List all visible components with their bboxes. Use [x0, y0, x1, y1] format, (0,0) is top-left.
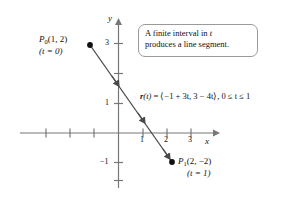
y-axis [114, 24, 123, 188]
point-P0-label: P0(1, 2) (t = 0) [39, 34, 67, 56]
y-axis-label: y [108, 13, 112, 23]
x-tick-label-2: 2 [164, 136, 168, 145]
y-tick-label-3: 3 [105, 39, 109, 48]
callout-box: A finite interval in t produces a line s… [138, 24, 258, 57]
parametric-line-figure: y x 1 2 3 3 1 −1 P0(1, 2) (t = 0) P1(2, … [0, 0, 300, 213]
x-tick-label-3: 3 [188, 136, 192, 145]
point-P1-param: (t = 1) [187, 168, 211, 178]
vector-equation: r(t) = ⟨−1 + 3t, 3 − 4t⟩, 0 ≤ t ≤ 1 [140, 92, 250, 102]
x-tick-label-1: 1 [140, 136, 144, 145]
callout-line-1-text: A finite interval in [145, 28, 210, 38]
point-P1-marker [169, 159, 175, 165]
point-P0-param: (t = 0) [39, 46, 63, 56]
y-tick-label-neg1: −1 [100, 158, 109, 167]
callout-line-2: produces a line segment. [145, 39, 252, 50]
equation-body: = ⟨−1 + 3t, 3 − 4t⟩, 0 ≤ t ≤ 1 [151, 91, 250, 101]
x-axis [20, 129, 214, 138]
callout-line-1: A finite interval in t [145, 28, 252, 39]
line-segment [90, 45, 172, 162]
point-P1-label: P1(2, −2) (t = 1) [178, 156, 211, 178]
y-tick-label-1: 1 [105, 99, 109, 108]
x-axis-label: x [205, 136, 209, 146]
point-P0-coords: (1, 2) [48, 34, 68, 44]
point-P0-marker [87, 42, 93, 48]
point-P1-coords: (2, −2) [187, 156, 212, 166]
callout-line-1-var: t [210, 28, 212, 38]
